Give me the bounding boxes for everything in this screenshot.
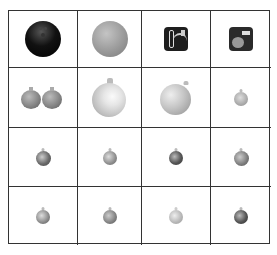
ornament-icon xyxy=(21,90,41,109)
grid-cell-r1-c0[interactable] xyxy=(9,68,78,128)
ornament-icon xyxy=(169,151,183,165)
grid-cell-r3-c2[interactable] xyxy=(142,187,211,245)
ornament-icon xyxy=(36,210,50,224)
ornament-icon xyxy=(169,210,183,224)
large-white-ornament xyxy=(92,78,128,118)
small-ornament xyxy=(233,148,249,166)
grid-cell-r2-c3[interactable] xyxy=(211,128,271,187)
large-light-ornament xyxy=(160,81,192,115)
ornament-icon xyxy=(234,210,248,224)
bowling-ball-icon xyxy=(25,21,61,57)
small-ornament xyxy=(102,148,118,166)
grey-ball-icon xyxy=(92,21,128,57)
app-chain-icon xyxy=(164,27,188,51)
ornament-icon xyxy=(36,151,51,166)
ornament-icon xyxy=(92,83,126,117)
small-ornament xyxy=(35,207,51,225)
ornament-icon xyxy=(42,90,62,109)
app-face-icon xyxy=(229,27,253,51)
ornament-pair xyxy=(21,87,65,109)
grid-cell-r0-c2[interactable] xyxy=(142,11,211,68)
ornament-icon xyxy=(234,151,249,166)
ornament-icon xyxy=(234,92,248,106)
small-ornament xyxy=(102,207,118,225)
grid-cell-r1-c1[interactable] xyxy=(78,68,142,128)
grid-cell-r0-c0[interactable] xyxy=(9,11,78,68)
ornament-icon xyxy=(103,210,117,224)
small-ornament xyxy=(168,207,184,225)
image-grid xyxy=(8,10,270,244)
grid-cell-r3-c1[interactable] xyxy=(78,187,142,245)
small-ornament xyxy=(233,89,249,107)
grid-cell-r1-c3[interactable] xyxy=(211,68,271,128)
small-ornament xyxy=(168,148,184,166)
grid-cell-r2-c1[interactable] xyxy=(78,128,142,187)
grid-cell-r3-c3[interactable] xyxy=(211,187,271,245)
grid-cell-r3-c0[interactable] xyxy=(9,187,78,245)
small-ornament xyxy=(35,148,51,166)
grid-cell-r1-c2[interactable] xyxy=(142,68,211,128)
ornament-icon xyxy=(160,84,191,115)
grid-cell-r2-c0[interactable] xyxy=(9,128,78,187)
grid-cell-r0-c3[interactable] xyxy=(211,11,271,68)
ornament-icon xyxy=(103,151,117,165)
grid-cell-r0-c1[interactable] xyxy=(78,11,142,68)
grid-cell-r2-c2[interactable] xyxy=(142,128,211,187)
small-ornament xyxy=(233,207,249,225)
